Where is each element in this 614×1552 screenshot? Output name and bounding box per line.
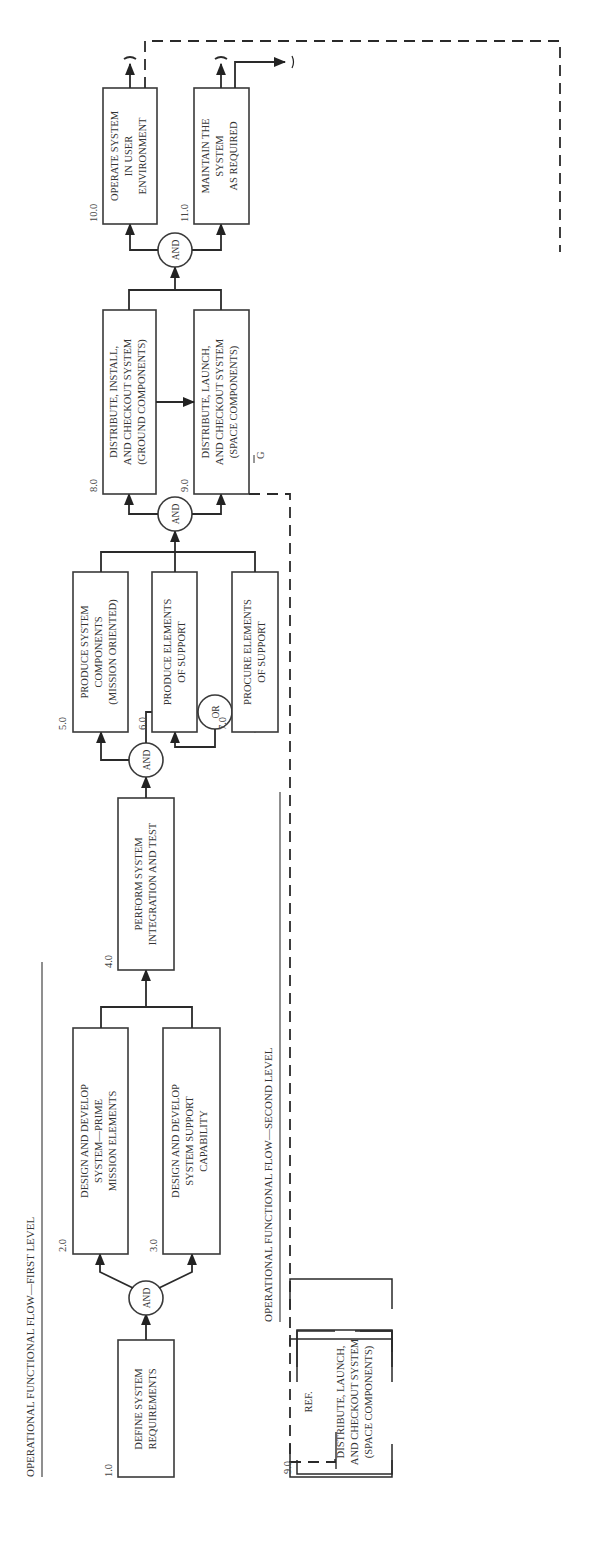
svg-text:PERFORM SYSTEM: PERFORM SYSTEM — [133, 837, 144, 931]
header-first-level-text: OPERATIONAL FUNCTIONAL FLOW—FIRST LEVEL — [24, 1216, 36, 1477]
svg-text:SYSTEM: SYSTEM — [214, 135, 225, 177]
svg-text:2.0: 2.0 — [57, 1239, 68, 1252]
block-4-0: 4.0 PERFORM SYSTEM INTEGRATION AND TEST — [103, 798, 174, 970]
ref-start-box: 9.0 REF. DISTRIBUTE, LAUNCH, AND CHECKOU… — [282, 1330, 392, 1474]
svg-text:(SPACE COMPONENTS): (SPACE COMPONENTS) — [363, 1345, 375, 1458]
functional-flow-diagram: OPERATIONAL FUNCTIONAL FLOW—FIRST LEVEL … — [0, 0, 614, 1552]
svg-text:1.0: 1.0 — [103, 1464, 114, 1477]
block-2-0: 2.0 DESIGN AND DEVELOP SYSTEM—PRIME MISS… — [57, 1028, 128, 1254]
svg-text:REQUIREMENTS: REQUIREMENTS — [147, 1368, 158, 1449]
svg-text:(SPACE COMPONENTS): (SPACE COMPONENTS) — [228, 345, 240, 458]
svg-text:INTEGRATION AND TEST: INTEGRATION AND TEST — [147, 822, 158, 945]
svg-text:3.0: 3.0 — [148, 1239, 159, 1252]
svg-text:ENVIRONMENT: ENVIRONMENT — [137, 117, 148, 195]
svg-text:11.0: 11.0 — [179, 204, 190, 222]
connector-g: G — [254, 451, 266, 463]
svg-text:AND: AND — [142, 750, 152, 771]
block-3-0: 3.0 DESIGN AND DEVELOP SYSTEM SUPPORT CA… — [148, 1028, 220, 1254]
block-8-0: 8.0 DISTRIBUTE, INSTALL, AND CHECKOUT SY… — [88, 310, 156, 494]
svg-text:DESIGN AND DEVELOP: DESIGN AND DEVELOP — [79, 1084, 90, 1198]
block-11-0: 11.0 MAINTAIN THE SYSTEM AS REQUIRED — [179, 88, 249, 224]
header-first-level: OPERATIONAL FUNCTIONAL FLOW—FIRST LEVEL — [24, 962, 42, 1477]
svg-text:OF SUPPORT: OF SUPPORT — [256, 621, 267, 683]
svg-text:7.0: 7.0 — [217, 717, 228, 730]
svg-text:4.0: 4.0 — [103, 955, 114, 968]
svg-text:8.0: 8.0 — [88, 479, 99, 492]
svg-text:AS REQUIRED: AS REQUIRED — [228, 121, 239, 191]
svg-text:OF SUPPORT: OF SUPPORT — [176, 621, 187, 683]
svg-text:PROCURE ELEMENTS: PROCURE ELEMENTS — [242, 599, 253, 705]
gate-and-2: AND — [129, 743, 163, 777]
svg-text:DEFINE SYSTEM: DEFINE SYSTEM — [133, 1368, 144, 1450]
svg-text:10.0: 10.0 — [88, 204, 99, 222]
svg-text:AND: AND — [171, 504, 181, 525]
svg-text:REF.: REF. — [303, 1391, 314, 1412]
svg-text:5.0: 5.0 — [57, 717, 68, 730]
svg-text:COMPONENTS: COMPONENTS — [93, 616, 104, 687]
gate-and-1: AND — [129, 1281, 163, 1315]
gate-and-4: AND — [158, 233, 192, 267]
svg-text:OPERATIONAL FUNCTIONAL FLOW—SE: OPERATIONAL FUNCTIONAL FLOW—SECOND LEVEL — [262, 1047, 274, 1322]
svg-text:AND CHECKOUT SYSTEM: AND CHECKOUT SYSTEM — [122, 338, 133, 465]
svg-text:DISTRIBUTE, INSTALL,: DISTRIBUTE, INSTALL, — [108, 346, 119, 458]
svg-text:PRODUCE ELEMENTS: PRODUCE ELEMENTS — [162, 599, 173, 706]
svg-text:AND: AND — [171, 240, 181, 261]
svg-text:9.0: 9.0 — [179, 479, 190, 492]
gate-and-3: AND — [158, 497, 192, 531]
block-10-0: 10.0 OPERATE SYSTEM IN USER ENVIRONMENT — [88, 88, 157, 224]
svg-text:PRODUCE SYSTEM: PRODUCE SYSTEM — [79, 605, 90, 699]
svg-text:DISTRIBUTE, LAUNCH,: DISTRIBUTE, LAUNCH, — [335, 1346, 346, 1459]
block-6-0: 6.0 PRODUCE ELEMENTS OF SUPPORT — [137, 572, 197, 732]
svg-text:9.0: 9.0 — [282, 1461, 293, 1474]
svg-text:DESIGN AND DEVELOP: DESIGN AND DEVELOP — [170, 1084, 181, 1198]
block-5-0: 5.0 PRODUCE SYSTEM COMPONENTS (MISSION O… — [57, 572, 128, 732]
block-1-0: 1.0 DEFINE SYSTEM REQUIREMENTS — [103, 1340, 174, 1477]
svg-text:DISTRIBUTE, LAUNCH,: DISTRIBUTE, LAUNCH, — [200, 346, 211, 459]
svg-text:AND: AND — [142, 1288, 152, 1309]
svg-text:MISSION ELEMENTS: MISSION ELEMENTS — [107, 1091, 118, 1192]
svg-text:AND CHECKOUT SYSTEM: AND CHECKOUT SYSTEM — [214, 338, 225, 465]
svg-text:SYSTEM SUPPORT: SYSTEM SUPPORT — [184, 1096, 195, 1186]
svg-text:6.0: 6.0 — [137, 717, 148, 730]
svg-text:CAPABILITY: CAPABILITY — [198, 1110, 209, 1172]
header-second-level: OPERATIONAL FUNCTIONAL FLOW—SECOND LEVEL — [262, 792, 280, 1322]
svg-text:(GROUND COMPONENTS): (GROUND COMPONENTS) — [136, 339, 148, 465]
svg-text:MAINTAIN THE: MAINTAIN THE — [200, 118, 211, 193]
svg-text:G: G — [255, 451, 266, 459]
svg-text:AND CHECKOUT SYSTEM: AND CHECKOUT SYSTEM — [349, 1338, 360, 1465]
svg-text:OPERATE SYSTEM: OPERATE SYSTEM — [109, 110, 120, 201]
svg-text:(MISSION ORIENTED): (MISSION ORIENTED) — [107, 599, 119, 705]
svg-text:IN USER: IN USER — [123, 136, 134, 177]
svg-text:SYSTEM—PRIME: SYSTEM—PRIME — [93, 1099, 104, 1183]
